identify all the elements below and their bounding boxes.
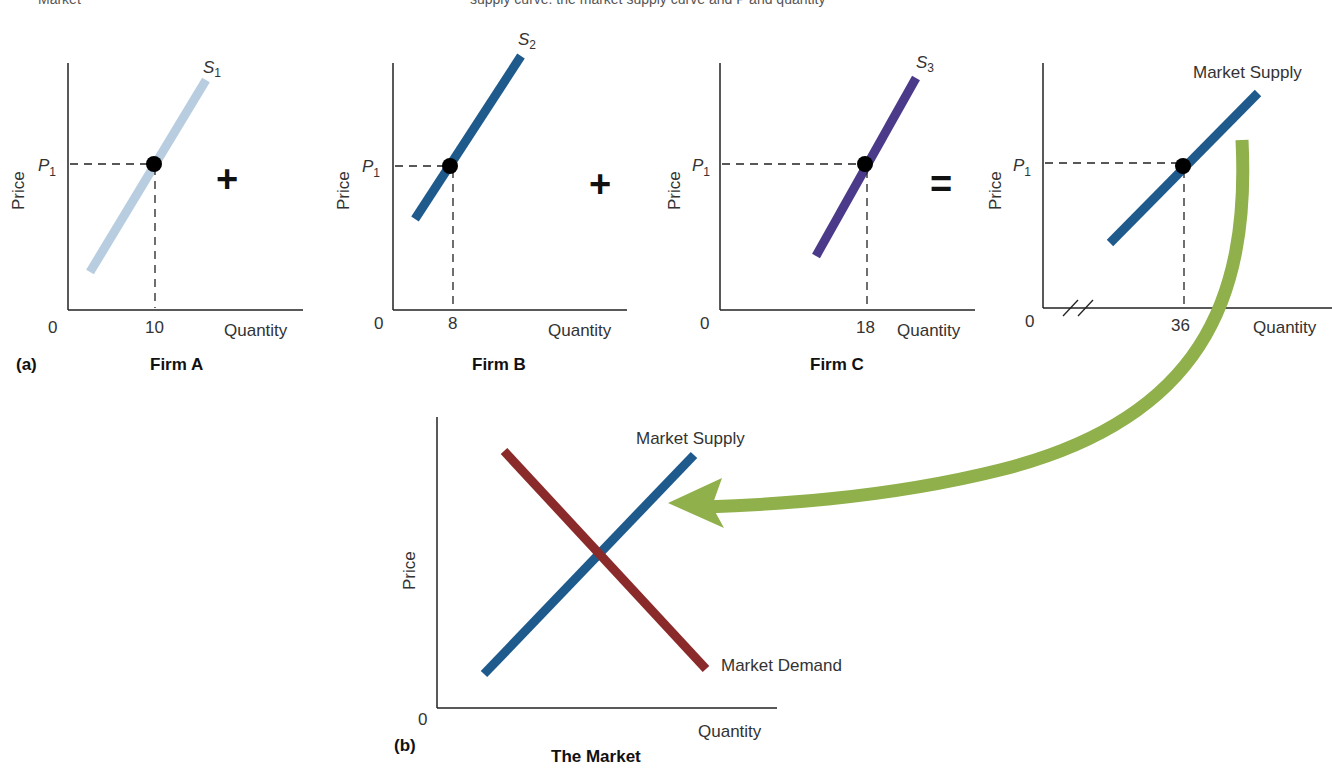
x-axis-label: Quantity	[698, 722, 762, 741]
chart-market-sum: Market Supply P1 Price 0 36 Quantity	[986, 63, 1332, 337]
chart-firm-b: S2 P1 Price 0 8 Quantity Firm B	[334, 30, 627, 374]
origin-label: 0	[374, 314, 383, 333]
chart-firm-a: S1 P1 Price 0 10 Quantity (a) Firm A	[9, 58, 303, 374]
curve-label: Market Supply	[1193, 63, 1302, 82]
market-supply-curve	[484, 455, 694, 674]
y-axis-label: Price	[665, 171, 684, 210]
x-axis-label: Quantity	[1253, 318, 1317, 337]
x-axis-label: Quantity	[224, 321, 288, 340]
y-axis-label: Price	[9, 171, 28, 210]
plus-operator: +	[589, 163, 611, 205]
y-axis-label: Price	[334, 171, 353, 210]
market-supply-diagram: S1 P1 Price 0 10 Quantity (a) Firm A + S…	[0, 0, 1332, 770]
price-label: P1	[1013, 156, 1031, 179]
supply-curve-s1	[90, 80, 206, 272]
qty-tick: 36	[1171, 316, 1190, 335]
equilibrium-point	[1175, 158, 1191, 174]
demand-label: Market Demand	[721, 656, 842, 675]
x-axis-label: Quantity	[548, 321, 612, 340]
equilibrium-point	[146, 156, 162, 172]
equilibrium-point	[442, 158, 458, 174]
firm-title: Firm B	[472, 355, 526, 374]
price-label: P1	[362, 157, 380, 180]
origin-label: 0	[418, 710, 427, 729]
curve-label: S2	[518, 30, 536, 52]
price-label: P1	[38, 156, 56, 179]
equals-operator: =	[930, 163, 952, 205]
price-label: P1	[692, 156, 710, 179]
y-axis-label: Price	[986, 171, 1005, 210]
origin-label: 0	[48, 318, 57, 337]
y-axis-label: Price	[400, 551, 419, 590]
panel-a-tag: (a)	[16, 355, 37, 374]
panel-b-tag: (b)	[394, 736, 416, 755]
qty-tick: 18	[856, 318, 875, 337]
firm-title: Firm C	[810, 355, 864, 374]
chart-the-market: Market Supply Market Demand Price 0 Quan…	[394, 417, 842, 766]
supply-label: Market Supply	[636, 429, 745, 448]
market-demand-curve	[504, 451, 706, 669]
curve-label: S1	[203, 58, 221, 80]
x-axis-label: Quantity	[897, 321, 961, 340]
origin-label: 0	[1025, 312, 1034, 331]
panel-b-title: The Market	[551, 747, 641, 766]
origin-label: 0	[700, 314, 709, 333]
qty-tick: 8	[448, 314, 457, 333]
firm-title: Firm A	[150, 355, 203, 374]
curve-label: S3	[916, 53, 934, 75]
chart-firm-c: S3 P1 Price 0 18 Quantity Firm C	[665, 53, 975, 374]
supply-curve-s2	[415, 56, 521, 219]
qty-tick: 10	[145, 318, 164, 337]
plus-operator: +	[216, 158, 238, 200]
equilibrium-point	[857, 156, 873, 172]
